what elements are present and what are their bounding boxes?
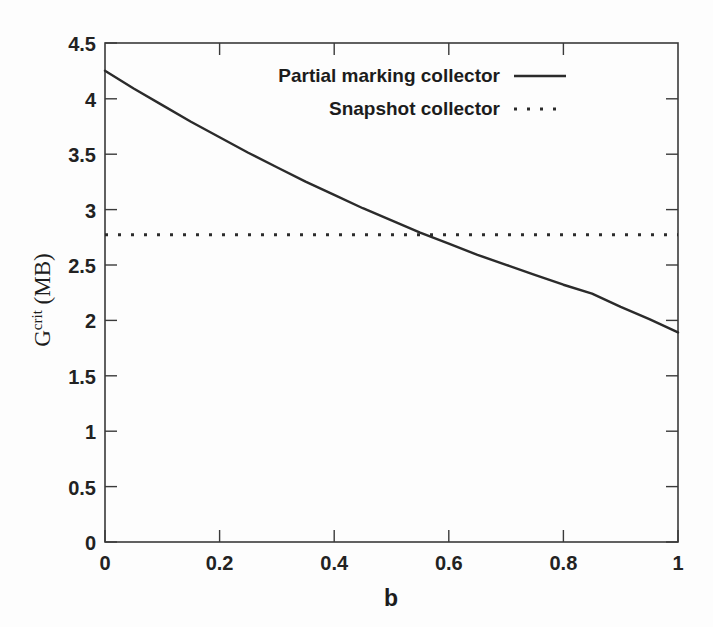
x-tick-label: 0.8 — [549, 552, 577, 574]
x-axis-title: b — [384, 585, 398, 611]
y-tick-label: 4 — [85, 89, 97, 111]
y-tick-label: 1.5 — [68, 366, 96, 388]
y-axis-title-superscript: crit — [29, 309, 45, 330]
y-tick-label: 0.5 — [68, 477, 96, 499]
x-tick-label: 0.4 — [320, 552, 349, 574]
y-axis-title-unit: (MB) — [30, 253, 55, 304]
chart-canvas: 0 0.5 1 1.5 2 2.5 3 3.5 4 4.5 0 — [0, 0, 713, 627]
legend: Partial marking collector Snapshot colle… — [278, 65, 566, 119]
y-tick-label: 3 — [85, 200, 96, 222]
y-tick-label: 3.5 — [68, 144, 96, 166]
x-tick-label: 1 — [672, 552, 683, 574]
svg-text:Gcrit (MB): Gcrit (MB) — [29, 253, 55, 347]
x-tick-label: 0.2 — [206, 552, 234, 574]
y-axis-title: Gcrit (MB) — [29, 253, 55, 347]
y-tick-label: 2.5 — [68, 255, 96, 277]
y-tick-labels: 0 0.5 1 1.5 2 2.5 3 3.5 4 4.5 — [68, 33, 97, 554]
y-tick-label: 2 — [85, 310, 96, 332]
y-tick-label: 1 — [85, 421, 96, 443]
legend-label-snapshot-collector: Snapshot collector — [329, 98, 501, 119]
x-tick-labels: 0 0.2 0.4 0.6 0.8 1 — [99, 552, 683, 574]
y-tick-label: 4.5 — [68, 33, 96, 55]
figure-container: 0 0.5 1 1.5 2 2.5 3 3.5 4 4.5 0 — [0, 0, 713, 627]
x-tick-label: 0.6 — [435, 552, 463, 574]
legend-label-partial-marking-collector: Partial marking collector — [278, 65, 500, 86]
y-tick-label: 0 — [85, 532, 96, 554]
x-tick-label: 0 — [99, 552, 110, 574]
y-axis-title-base: G — [30, 330, 55, 347]
